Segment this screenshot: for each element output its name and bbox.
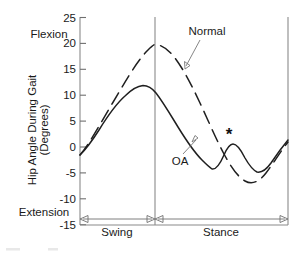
y-tick-label-m5: -5 (66, 167, 76, 179)
y-tick-label-0: 0 (70, 141, 76, 153)
stance-phase-span: Stance (155, 216, 288, 239)
y-tick-label-m15: -15 (59, 219, 76, 231)
flexion-label: Flexion (30, 28, 67, 40)
normal-annotation-arrowhead (185, 62, 191, 70)
y-axis-title-group: Hip Angle During Gait (Degrees) (26, 74, 50, 185)
normal-annotation-arrow-line (186, 40, 200, 66)
y-tick-label-m10: -10 (59, 193, 76, 205)
extension-label: Extension (19, 206, 70, 218)
y-axis-title-line2: (Degrees) (38, 104, 50, 155)
figure-container: 25 20 15 10 5 0 -5 -10 -15 Flexion Exten… (0, 0, 308, 255)
hip-angle-gait-chart: 25 20 15 10 5 0 -5 -10 -15 Flexion Exten… (0, 0, 308, 255)
scan-artifact-left (6, 248, 20, 251)
scan-artifact-right (48, 248, 58, 251)
y-tick-label-15: 15 (63, 63, 76, 75)
stance-phase-label: Stance (203, 226, 239, 238)
y-axis-title-line1: Hip Angle During Gait (26, 74, 38, 185)
asterisk-marker: * (226, 125, 233, 144)
y-tick-label-10: 10 (63, 89, 76, 101)
y-tick-label-5: 5 (70, 115, 76, 127)
normal-annotation-group: Normal (185, 25, 226, 69)
swing-phase-label: Swing (101, 226, 132, 238)
y-axis-group: 25 20 15 10 5 0 -5 -10 -15 (59, 12, 86, 231)
normal-series-label: Normal (188, 25, 225, 37)
swing-phase-span: Swing (80, 216, 155, 239)
y-tick-label-25: 25 (63, 12, 76, 24)
oa-series-label: OA (172, 155, 189, 167)
